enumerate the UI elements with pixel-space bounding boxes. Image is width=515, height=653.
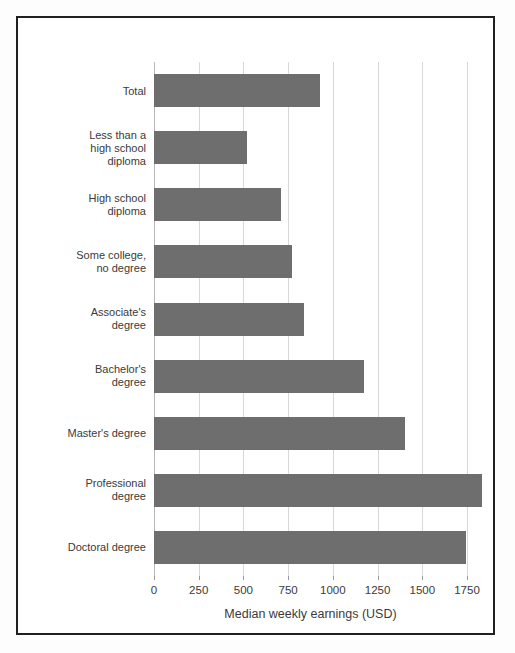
y-axis-category-label: Bachelor's degree (26, 363, 146, 389)
y-axis-category-label: Total (26, 84, 146, 97)
x-tick-label: 1500 (409, 584, 435, 596)
bar-row: Less than a high school diploma (154, 131, 467, 164)
bar[interactable] (154, 531, 466, 564)
y-axis-category-label: Some college, no degree (26, 249, 146, 275)
tickmark-x-1000 (333, 576, 334, 580)
x-tick-label: 0 (151, 584, 157, 596)
y-axis-category-label: Associate's degree (26, 306, 146, 332)
bar-row: High school diploma (154, 188, 467, 221)
tickmark-x-1750 (467, 576, 468, 580)
y-axis-category-label: Professional degree (26, 477, 146, 503)
plot-area: TotalLess than a high school diplomaHigh… (154, 62, 467, 576)
chart-figure: TotalLess than a high school diplomaHigh… (0, 0, 515, 653)
tickmark-x-1250 (378, 576, 379, 580)
bar[interactable] (154, 188, 281, 221)
x-axis-title: Median weekly earnings (USD) (154, 607, 467, 621)
chart-frame-border: TotalLess than a high school diplomaHigh… (16, 16, 495, 635)
bar-row: Total (154, 74, 467, 107)
bar[interactable] (154, 360, 364, 393)
bar-row: Bachelor's degree (154, 360, 467, 393)
bar[interactable] (154, 245, 292, 278)
tickmark-x-1500 (422, 576, 423, 580)
tickmark-x-0 (154, 576, 155, 580)
bar[interactable] (154, 474, 482, 507)
bar[interactable] (154, 74, 320, 107)
y-axis-category-label: Less than a high school diploma (26, 128, 146, 167)
y-axis-category-label: Doctoral degree (26, 541, 146, 554)
x-tick-label: 1000 (320, 584, 346, 596)
bar-series: TotalLess than a high school diplomaHigh… (154, 62, 467, 576)
x-tick-label: 1750 (454, 584, 480, 596)
tickmark-x-500 (243, 576, 244, 580)
bar-row: Professional degree (154, 474, 467, 507)
bar-row: Master's degree (154, 417, 467, 450)
tickmark-x-250 (199, 576, 200, 580)
x-tick-label: 750 (279, 584, 298, 596)
x-tick-label: 500 (234, 584, 253, 596)
bar-row: Doctoral degree (154, 531, 467, 564)
y-axis-category-label: High school diploma (26, 192, 146, 218)
bar[interactable] (154, 303, 304, 336)
bar[interactable] (154, 131, 247, 164)
tickmark-x-750 (288, 576, 289, 580)
bar[interactable] (154, 417, 405, 450)
y-axis-category-label: Master's degree (26, 427, 146, 440)
bar-row: Some college, no degree (154, 245, 467, 278)
x-tick-label: 1250 (365, 584, 391, 596)
bar-row: Associate's degree (154, 303, 467, 336)
x-tick-label: 250 (189, 584, 208, 596)
